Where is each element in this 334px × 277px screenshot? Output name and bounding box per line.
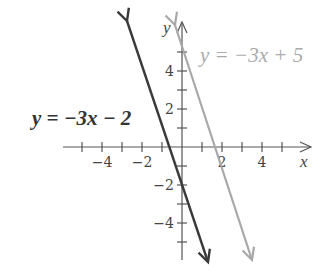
- y-tick-label: −2: [153, 177, 174, 193]
- y-axis-label: y: [161, 18, 171, 37]
- y-axis: 4 2 −2 −4 y: [153, 18, 187, 260]
- equation-label-dark: y = −3x − 2: [29, 106, 132, 130]
- x-axis-label: x: [299, 152, 308, 171]
- y-tick-label: 4: [165, 63, 174, 79]
- x-tick-label: −2: [132, 154, 153, 170]
- x-tick-label: −4: [92, 154, 113, 170]
- equation-label-light: y = −3x + 5: [198, 43, 303, 67]
- line-chart: −4 −2 2 4 x 4 2 −2 −4 y y = −3x + 5 y = …: [0, 0, 334, 277]
- x-axis: −4 −2 2 4 x: [63, 142, 311, 171]
- y-tick-label: −4: [153, 215, 174, 231]
- y-tick-label: 2: [165, 101, 174, 117]
- x-tick-label: 4: [258, 154, 267, 170]
